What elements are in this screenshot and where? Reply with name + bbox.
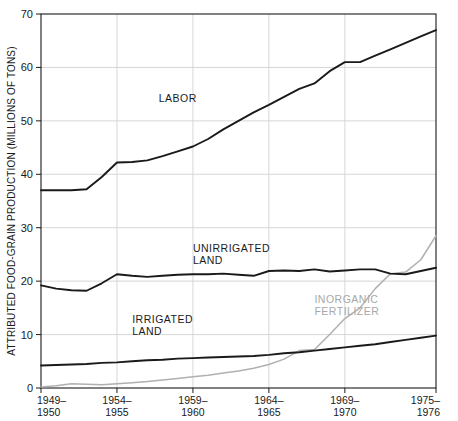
series-annotation-irrigated-land: IRRIGATED [132,313,193,325]
x-axis-ticks: 1949–19501954–19551959–19601964–19651969… [37,388,440,418]
x-tick-label-end-year: 1965 [257,406,281,418]
y-axis-ticks: 010203040506070 [21,8,41,394]
y-tick-label: 30 [21,222,33,234]
y-tick-label: 40 [21,168,33,180]
data-series [41,30,436,387]
x-tick-label-start-year: 1964– [254,394,283,406]
series-annotation-labor: LABOR [159,92,197,104]
food-grain-production-line-chart: 010203040506070 1949–19501954–19551959–1… [0,0,458,421]
y-axis-label: ATTRIBUTED FOOD-GRAIN PRODUCTION (MILLIO… [6,46,17,355]
series-line-irrigated-land [41,336,436,366]
series-annotations: LABORUNIRRIGATEDLANDIRRIGATEDLANDINORGAN… [132,92,379,337]
series-annotation-inorganic-fertilizer: FERTILIZER [314,305,379,317]
x-tick-label-start-year: 1969– [330,394,359,406]
chart-container: 010203040506070 1949–19501954–19551959–1… [0,0,458,421]
x-tick-label-start-year: 1954– [102,394,131,406]
series-annotation-unirrigated-land: UNIRRIGATED [193,242,270,254]
y-tick-label: 50 [21,115,33,127]
x-tick-label-start-year: 1949– [37,394,66,406]
series-annotation-irrigated-land: LAND [132,325,162,337]
x-tick-label-end-year: 1976 [417,406,441,418]
x-tick-label-end-year: 1950 [37,406,61,418]
x-tick-label-start-year: 1959– [178,394,207,406]
x-tick-label-end-year: 1960 [181,406,205,418]
y-tick-label: 0 [27,382,33,394]
series-annotation-unirrigated-land: LAND [193,254,223,266]
series-line-labor [41,30,436,190]
y-tick-label: 10 [21,329,33,341]
gridlines [41,14,436,388]
x-tick-label-end-year: 1955 [105,406,129,418]
y-axis-title: ATTRIBUTED FOOD-GRAIN PRODUCTION (MILLIO… [6,46,17,355]
y-tick-label: 60 [21,61,33,73]
y-tick-label: 70 [21,8,33,20]
series-annotation-inorganic-fertilizer: INORGANIC [314,293,378,305]
x-tick-label-start-year: 1975– [411,394,440,406]
y-tick-label: 20 [21,275,33,287]
plot-frame [41,14,436,388]
x-tick-label-end-year: 1970 [333,406,357,418]
